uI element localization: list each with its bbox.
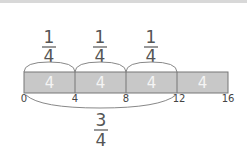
- tick-12: 12: [173, 93, 186, 104]
- tick-8: 8: [123, 93, 129, 104]
- tick-0: 0: [21, 93, 27, 104]
- svg-text:4: 4: [146, 46, 157, 66]
- svg-text:1: 1: [44, 27, 55, 47]
- tape-diagram: 1 4 1 4 1 4 4 4 4 4 0 4 8 12 16 3 4: [0, 0, 247, 159]
- bottom-fraction: 3 4: [94, 110, 108, 150]
- segment-label-2: 4: [96, 74, 106, 92]
- svg-text:3: 3: [96, 110, 107, 130]
- top-fraction-3: 1 4: [144, 27, 158, 66]
- top-fraction-2: 1 4: [93, 27, 107, 66]
- svg-text:1: 1: [146, 27, 157, 47]
- tape-bar: 4 4 4 4: [24, 72, 228, 93]
- tick-4: 4: [72, 93, 78, 104]
- bottom-arc: [26, 95, 176, 108]
- segment-label-3: 4: [147, 74, 157, 92]
- svg-text:4: 4: [96, 130, 107, 150]
- segment-label-4: 4: [198, 74, 208, 92]
- top-fraction-1: 1 4: [42, 27, 56, 66]
- svg-text:4: 4: [44, 46, 55, 66]
- svg-text:1: 1: [95, 27, 106, 47]
- segment-label-1: 4: [45, 74, 55, 92]
- tick-16: 16: [222, 93, 235, 104]
- svg-text:4: 4: [95, 46, 106, 66]
